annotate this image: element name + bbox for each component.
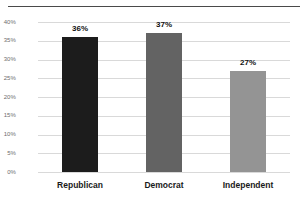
- bar: [146, 33, 182, 172]
- gridline: [38, 172, 290, 173]
- y-axis-tick-label: 10%: [0, 131, 16, 137]
- bar-group: 37%: [122, 22, 206, 172]
- y-axis-tick-label: 35%: [0, 37, 16, 43]
- y-axis-tick-label: 40%: [0, 19, 16, 25]
- bar-value-label: 36%: [72, 25, 88, 33]
- y-axis-tick-label: 5%: [0, 150, 16, 156]
- y-axis-tick-label: 15%: [0, 112, 16, 118]
- plot-area: 0%5%10%15%20%25%30%35%40% 36%37%27%: [38, 22, 290, 172]
- y-axis-tick-label: 30%: [0, 56, 16, 62]
- bar-value-label: 37%: [156, 21, 172, 29]
- y-axis-tick-label: 0%: [0, 169, 16, 175]
- bar-group: 27%: [206, 22, 290, 172]
- bar-group: 36%: [38, 22, 122, 172]
- category-label: Independent: [206, 180, 290, 190]
- bar: [230, 71, 266, 172]
- bar: [62, 37, 98, 172]
- y-axis-tick-label: 25%: [0, 75, 16, 81]
- category-label: Republican: [38, 180, 122, 190]
- bars-layer: 36%37%27%: [38, 22, 290, 172]
- bar-value-label: 27%: [240, 59, 256, 67]
- y-axis-tick-label: 20%: [0, 94, 16, 100]
- category-label: Democrat: [122, 180, 206, 190]
- top-divider-rule: [8, 6, 300, 7]
- bar-chart-figure: 0%5%10%15%20%25%30%35%40% 36%37%27% Repu…: [0, 0, 308, 209]
